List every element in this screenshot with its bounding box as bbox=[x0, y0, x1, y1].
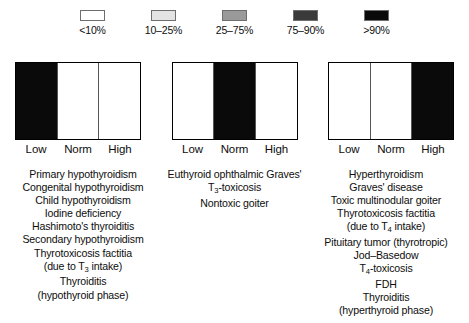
axis-label-low: Low bbox=[328, 143, 370, 155]
condition-item: Hashimoto's thyroiditis bbox=[8, 220, 158, 233]
condition-item: (due to T3 intake) bbox=[8, 260, 158, 276]
legend-swatch-lt10 bbox=[80, 10, 105, 21]
bar-high bbox=[99, 63, 140, 139]
caption-row: Primary hypothyroidismCongenital hypothy… bbox=[0, 168, 469, 317]
legend-label: 25–75% bbox=[216, 24, 253, 36]
axis-label-norm: Norm bbox=[57, 143, 99, 155]
condition-item: Iodine deficiency bbox=[8, 207, 158, 220]
condition-item: Jod–Basedow bbox=[311, 249, 461, 262]
condition-item: Congenital hypothyroidism bbox=[8, 181, 158, 194]
bar-norm bbox=[371, 63, 413, 139]
legend-label: 10–25% bbox=[145, 24, 182, 36]
condition-list-euthyroid: Euthyroid ophthalmic Graves'T3-toxicosis… bbox=[160, 168, 310, 317]
axis-label-high: High bbox=[256, 143, 298, 155]
legend-swatch-75-90 bbox=[293, 10, 318, 21]
legend-item: >90% bbox=[351, 10, 403, 36]
condition-item: Euthyroid ophthalmic Graves' bbox=[160, 168, 310, 181]
condition-list-hypothyroid: Primary hypothyroidismCongenital hypothy… bbox=[8, 168, 158, 317]
condition-item: Hyperthyroidism bbox=[311, 168, 461, 181]
legend-item: 75–90% bbox=[280, 10, 332, 36]
condition-item: Toxic multinodular goiter bbox=[311, 194, 461, 207]
condition-item: Thyroiditis bbox=[8, 275, 158, 288]
condition-item: Pituitary tumor (thyrotropic) bbox=[311, 236, 461, 249]
legend-label: <10% bbox=[79, 24, 105, 36]
condition-item: (due to T4 intake) bbox=[311, 220, 461, 236]
condition-item: T4-toxicosis bbox=[311, 262, 461, 278]
condition-item: Thyrotoxicosis factitia bbox=[311, 207, 461, 220]
condition-item: FDH bbox=[311, 278, 461, 291]
condition-item: Secondary hypothyroidism bbox=[8, 233, 158, 246]
bar-low bbox=[329, 63, 371, 139]
bar-group bbox=[328, 62, 454, 140]
legend-item: 25–75% bbox=[209, 10, 261, 36]
axis-label-high: High bbox=[412, 143, 454, 155]
panel-hypothyroid: Low Norm High bbox=[14, 62, 142, 155]
axis-label-norm: Norm bbox=[214, 143, 256, 155]
condition-item: Primary hypothyroidism bbox=[8, 168, 158, 181]
axis-label-low: Low bbox=[15, 143, 57, 155]
legend-item: 10–25% bbox=[138, 10, 190, 36]
bar-norm bbox=[214, 63, 256, 139]
bar-norm bbox=[58, 63, 100, 139]
legend-swatch-gt90 bbox=[364, 10, 389, 21]
legend-label: >90% bbox=[363, 24, 389, 36]
legend: <10% 10–25% 25–75% 75–90% >90% bbox=[0, 10, 469, 36]
condition-item: (hyperthyroid phase) bbox=[311, 304, 461, 317]
legend-item: <10% bbox=[67, 10, 119, 36]
condition-list-hyperthyroid: HyperthyroidismGraves' diseaseToxic mult… bbox=[311, 168, 461, 317]
panel-hyperthyroid: Low Norm High bbox=[327, 62, 455, 155]
axis-label-norm: Norm bbox=[370, 143, 412, 155]
bar-high bbox=[256, 63, 297, 139]
bar-group bbox=[172, 62, 298, 140]
bar-low bbox=[173, 63, 215, 139]
condition-item: (hypothyroid phase) bbox=[8, 289, 158, 302]
condition-item: T3-toxicosis bbox=[160, 181, 310, 197]
axis-labels: Low Norm High bbox=[15, 143, 141, 155]
condition-item: Thyrotoxicosis factitia bbox=[8, 247, 158, 260]
condition-item: Thyroiditis bbox=[311, 291, 461, 304]
legend-swatch-10-25 bbox=[151, 10, 176, 21]
condition-item: Child hypothyroidism bbox=[8, 194, 158, 207]
axis-labels: Low Norm High bbox=[172, 143, 298, 155]
condition-item: Graves' disease bbox=[311, 181, 461, 194]
axis-label-low: Low bbox=[172, 143, 214, 155]
axis-label-high: High bbox=[99, 143, 141, 155]
panel-row: Low Norm High Low Norm High Low Norm Hig… bbox=[0, 62, 469, 155]
bar-high bbox=[412, 63, 453, 139]
condition-item: Nontoxic goiter bbox=[160, 197, 310, 210]
legend-swatch-25-75 bbox=[222, 10, 247, 21]
panel-euthyroid: Low Norm High bbox=[171, 62, 299, 155]
bar-group bbox=[15, 62, 141, 140]
bar-low bbox=[16, 63, 58, 139]
legend-label: 75–90% bbox=[287, 24, 324, 36]
axis-labels: Low Norm High bbox=[328, 143, 454, 155]
